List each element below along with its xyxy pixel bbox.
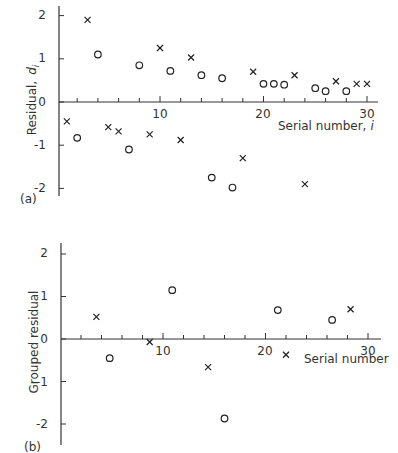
cross-marker — [85, 17, 91, 23]
cross-marker — [250, 69, 256, 75]
panel-b-xtick-20: 20 — [257, 344, 272, 358]
circle-marker — [343, 88, 350, 95]
panel-a-ytick-neg1: -1 — [34, 138, 46, 152]
circle-marker — [169, 287, 176, 294]
panel-a-ytick-1: 1 — [38, 51, 46, 65]
panel-a-ytick-0: 0 — [38, 95, 46, 109]
panel-a-residual-plot: 2 1 0 -1 -2 10 20 30 Residual,di Serial … — [20, 6, 378, 206]
circle-marker — [74, 135, 81, 142]
cross-marker — [93, 314, 99, 320]
svg-text:Residual,di: Residual,di — [25, 64, 41, 135]
panel-b-ytick-0: 0 — [40, 332, 48, 346]
circle-marker — [126, 146, 133, 153]
cross-marker — [240, 155, 246, 161]
circle-marker — [275, 307, 282, 314]
panel-a-xtick-20: 20 — [255, 107, 270, 121]
circle-marker — [221, 415, 228, 422]
panel-b-xtick-10: 10 — [155, 344, 170, 358]
circle-marker — [312, 85, 319, 92]
circle-marker — [106, 355, 113, 362]
circle-marker — [281, 81, 288, 88]
panel-b-ytick-1: 1 — [40, 289, 48, 303]
cross-marker — [188, 55, 194, 61]
residual-plots-figure: 2 1 0 -1 -2 10 20 30 Residual,di Serial … — [0, 0, 398, 453]
circle-marker — [260, 81, 267, 88]
cross-marker — [105, 124, 111, 130]
circle-marker — [322, 88, 329, 95]
circle-marker — [219, 75, 226, 82]
panel-b-x-axis-label: Serial number — [304, 352, 389, 366]
panel-a-x-axis-label: Serial number,i — [278, 119, 374, 133]
cross-marker — [283, 352, 289, 358]
cross-marker — [302, 181, 308, 187]
circle-marker — [95, 51, 102, 58]
circle-marker — [229, 184, 236, 191]
cross-marker — [147, 131, 153, 137]
cross-marker — [178, 137, 184, 143]
cross-marker — [364, 81, 370, 87]
circle-marker — [329, 317, 336, 324]
cross-marker — [64, 118, 70, 124]
panel-b-ytick-neg2: -2 — [36, 417, 48, 431]
cross-marker — [354, 81, 360, 87]
circle-marker — [198, 72, 205, 79]
circle-marker — [136, 62, 143, 69]
cross-marker — [333, 78, 339, 84]
panel-a-data-points — [64, 17, 370, 191]
circle-marker — [167, 68, 174, 75]
cross-marker — [157, 45, 163, 51]
panel-a-xtick-10: 10 — [152, 107, 167, 121]
panel-b-grouped-residual-plot: 2 1 0 -1 -2 10 20 30 Grouped residual Se… — [24, 243, 389, 453]
cross-marker — [147, 339, 153, 345]
panel-a-y-axis-label: Residual,di — [25, 64, 41, 135]
cross-marker — [292, 72, 298, 78]
panel-a-ytick-2: 2 — [38, 8, 46, 22]
panel-b-ytick-2: 2 — [40, 246, 48, 260]
panel-b-label: (b) — [24, 440, 41, 453]
cross-marker — [205, 364, 211, 370]
panel-b-y-axis-label: Grouped residual — [27, 291, 41, 394]
circle-marker — [208, 174, 215, 181]
circle-marker — [271, 81, 278, 88]
panel-a-label: (a) — [20, 192, 37, 206]
cross-marker — [348, 306, 354, 312]
cross-marker — [116, 128, 122, 134]
